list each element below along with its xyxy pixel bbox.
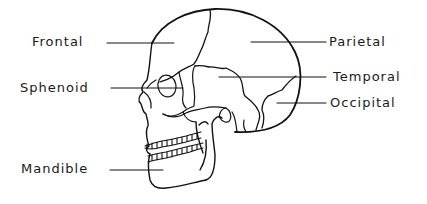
- label-sphenoid: Sphenoid: [20, 81, 89, 94]
- label-temporal: Temporal: [333, 70, 401, 83]
- label-frontal: Frontal: [32, 35, 83, 48]
- sphenoid-region: [163, 66, 195, 116]
- mastoid-process: [219, 108, 246, 132]
- label-parietal: Parietal: [329, 35, 386, 48]
- squamosal-suture: [195, 66, 260, 130]
- upper-teeth: [145, 132, 201, 149]
- coronal-suture: [160, 10, 211, 82]
- cranium-outline: [152, 9, 300, 132]
- zygomatic-arch: [163, 107, 226, 122]
- label-occipital: Occipital: [330, 96, 396, 109]
- label-mandible: Mandible: [21, 162, 88, 175]
- nasal-bone: [144, 80, 156, 108]
- orbit: [156, 73, 178, 98]
- lower-teeth: [148, 143, 203, 162]
- lambdoid-suture: [262, 76, 296, 128]
